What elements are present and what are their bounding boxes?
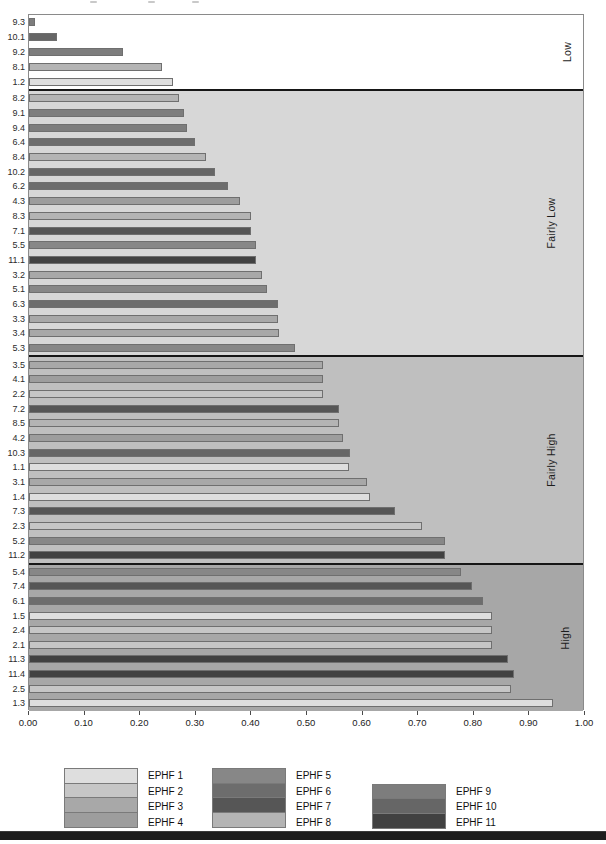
category-label: 3.3 <box>12 314 25 324</box>
category-label: 7.1 <box>12 226 25 236</box>
x-tick-label: 0.40 <box>241 717 260 728</box>
bar-chart-screenshot: 9.310.19.28.11.2Low8.29.19.46.48.410.26.… <box>0 0 606 844</box>
bar-ephf-8 <box>29 419 339 427</box>
legend-swatch-ephf-11 <box>373 814 445 829</box>
section-high: 5.47.46.11.52.42.111.311.42.51.3High <box>29 563 583 711</box>
bar-row: 2.2 <box>29 387 583 402</box>
bar-row: 8.4 <box>29 150 583 165</box>
category-label: 9.3 <box>12 17 25 27</box>
bar-ephf-8 <box>29 212 251 220</box>
category-label: 10.3 <box>7 448 25 458</box>
bar-row: 11.3 <box>29 652 583 667</box>
bar-row: 7.3 <box>29 504 583 519</box>
category-label: 6.2 <box>12 181 25 191</box>
category-label: 1.2 <box>12 77 25 87</box>
x-tick-label: 0.60 <box>352 717 371 728</box>
category-label: 5.1 <box>12 284 25 294</box>
legend-swatch-ephf-9 <box>373 785 445 800</box>
bar-row: 8.1 <box>29 59 583 74</box>
bar-row: 6.1 <box>29 594 583 609</box>
category-label: 8.4 <box>12 152 25 162</box>
category-label: 8.1 <box>12 62 25 72</box>
x-tick <box>473 711 474 715</box>
bar-row: 10.3 <box>29 445 583 460</box>
bar-ephf-10 <box>29 449 350 457</box>
x-tick-label: 0.90 <box>519 717 538 728</box>
x-tick-label: 0.50 <box>297 717 316 728</box>
category-label: 8.5 <box>12 418 25 428</box>
bar-ephf-10 <box>29 33 57 41</box>
bar-ephf-8 <box>29 153 206 161</box>
bar-ephf-11 <box>29 551 445 559</box>
category-label: 1.5 <box>12 611 25 621</box>
bar-ephf-1 <box>29 493 370 501</box>
bar-row: 9.3 <box>29 15 583 30</box>
category-label: 11.4 <box>8 669 25 679</box>
bar-row: 5.3 <box>29 341 583 356</box>
bar-ephf-5 <box>29 537 445 545</box>
category-label: 4.1 <box>12 374 25 384</box>
bar-row: 3.5 <box>29 357 583 372</box>
legend-entry-label: EPHF 3 <box>148 799 183 815</box>
bar-ephf-1 <box>29 699 553 707</box>
bar-row: 1.2 <box>29 74 583 89</box>
plot-area: 9.310.19.28.11.2Low8.29.19.46.48.410.26.… <box>28 14 584 710</box>
legend-label-block: EPHF 9EPHF 10EPHF 11 <box>456 784 497 831</box>
category-label: 11.2 <box>8 550 25 560</box>
legend-entry-label: EPHF 1 <box>148 768 183 784</box>
x-axis: 0.000.100.200.300.400.500.600.700.800.90… <box>28 711 584 737</box>
bar-row: 11.2 <box>29 548 583 563</box>
bar-ephf-8 <box>29 63 162 71</box>
section-low: 9.310.19.28.11.2Low <box>29 15 583 89</box>
bar-row: 3.3 <box>29 311 583 326</box>
bar-ephf-1 <box>29 78 173 86</box>
x-tick <box>417 711 418 715</box>
category-label: 9.4 <box>12 123 25 133</box>
bar-ephf-5 <box>29 344 295 352</box>
category-label: 3.4 <box>12 328 25 338</box>
category-label: 2.4 <box>12 625 25 635</box>
bar-ephf-11 <box>29 256 256 264</box>
legend-entry-label: EPHF 7 <box>296 799 331 815</box>
bar-row: 2.4 <box>29 623 583 638</box>
legend-swatch-block <box>64 768 138 828</box>
category-label: 1.1 <box>12 462 25 472</box>
bar-row: 3.4 <box>29 326 583 341</box>
bar-ephf-6 <box>29 138 195 146</box>
category-label: 5.3 <box>12 343 25 353</box>
section-band-label: High <box>560 626 572 649</box>
x-tick-label: 0.20 <box>130 717 149 728</box>
category-label: 4.2 <box>12 433 25 443</box>
category-label: 8.3 <box>12 211 25 221</box>
bar-row: 11.4 <box>29 667 583 682</box>
bar-ephf-4 <box>29 434 343 442</box>
legend: EPHF 1EPHF 2EPHF 3EPHF 4EPHF 5EPHF 6EPHF… <box>0 768 606 832</box>
category-label: 7.3 <box>12 506 25 516</box>
legend-swatch-ephf-7 <box>213 798 285 813</box>
legend-swatch-ephf-1 <box>65 769 137 784</box>
x-tick <box>306 711 307 715</box>
bar-ephf-1 <box>29 612 492 620</box>
legend-swatch-block <box>372 784 446 830</box>
bar-ephf-3 <box>29 478 367 486</box>
bar-ephf-7 <box>29 227 251 235</box>
bar-row: 8.3 <box>29 209 583 224</box>
bar-ephf-7 <box>29 582 472 590</box>
section-band-label: Fairly High <box>544 433 556 486</box>
bar-row: 8.5 <box>29 416 583 431</box>
bar-row: 6.2 <box>29 179 583 194</box>
legend-swatch-block <box>212 768 286 828</box>
bar-row: 1.5 <box>29 608 583 623</box>
legend-entry-label: EPHF 6 <box>296 784 331 800</box>
category-label: 10.1 <box>7 32 25 42</box>
legend-entry-label: EPHF 8 <box>296 815 331 831</box>
bar-ephf-7 <box>29 405 339 413</box>
category-label: 4.3 <box>12 196 25 206</box>
bar-row: 9.4 <box>29 120 583 135</box>
x-tick <box>84 711 85 715</box>
bar-row: 2.5 <box>29 681 583 696</box>
bar-ephf-6 <box>29 182 228 190</box>
x-tick <box>584 711 585 715</box>
bar-row: 1.1 <box>29 460 583 475</box>
bar-ephf-5 <box>29 568 461 576</box>
